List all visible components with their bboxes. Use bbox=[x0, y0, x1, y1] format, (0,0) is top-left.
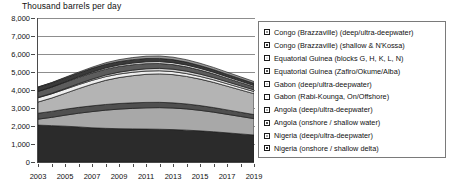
x-axis-tick-label: 2017 bbox=[219, 172, 236, 181]
chart-title: Thousand barrels per day bbox=[22, 1, 121, 11]
legend-swatch-icon bbox=[264, 68, 270, 74]
legend-swatch-icon bbox=[264, 133, 270, 139]
legend-swatch-icon bbox=[264, 42, 270, 48]
x-axis-tick-mark bbox=[119, 164, 120, 167]
y-axis-tick-label: 7,000 bbox=[11, 32, 30, 41]
legend-item-label: Congo (Brazzaville) (shallow & N'Kossa) bbox=[274, 41, 405, 50]
x-axis-tick-mark bbox=[133, 164, 134, 167]
legend-item[interactable]: Nigeria (deep/ultra-deepwater) bbox=[264, 129, 442, 142]
legend-item-label: Gabon (deep/ultra-deepwater) bbox=[274, 80, 372, 89]
x-axis-tick-mark bbox=[146, 164, 147, 167]
y-axis-tick-mark bbox=[31, 36, 35, 37]
legend-item-label: Nigeria (onshore / shallow delta) bbox=[274, 144, 379, 153]
legend-item-label: Equatorial Guinea (Zafiro/Okume/Alba) bbox=[274, 67, 400, 76]
legend-swatch-icon bbox=[264, 107, 270, 113]
legend-item-label: Angola (deep/ultra-deepwater) bbox=[274, 105, 373, 114]
legend-item[interactable]: Angola (deep/ultra-deepwater) bbox=[264, 103, 442, 116]
y-axis-tick-mark bbox=[31, 162, 35, 163]
legend-swatch-icon bbox=[264, 120, 270, 126]
y-axis-tick-mark bbox=[31, 54, 35, 55]
legend-item-label: Angola (onshore / shallow water) bbox=[274, 118, 380, 127]
legend-item[interactable]: Congo (Brazzaville) (deep/ultra-deepwate… bbox=[264, 26, 442, 39]
x-axis-tick-mark bbox=[106, 164, 107, 167]
x-axis-tick-mark bbox=[92, 164, 93, 167]
legend-item-label: Nigeria (deep/ultra-deepwater) bbox=[274, 131, 373, 140]
x-axis-tick-label: 2019 bbox=[246, 172, 263, 181]
x-axis-tick-label: 2013 bbox=[165, 172, 182, 181]
legend-item[interactable]: Gabon (deep/ultra-deepwater) bbox=[264, 78, 442, 91]
legend-swatch-icon bbox=[264, 94, 270, 100]
x-axis-tick-mark bbox=[200, 164, 201, 167]
y-axis-tick-mark bbox=[31, 18, 35, 19]
y-axis-tick-mark bbox=[31, 90, 35, 91]
x-axis: 200320052007200920112013201520172019 bbox=[37, 164, 254, 184]
legend-item[interactable]: Equatorial Guinea (blocks G, H, K, L, N) bbox=[264, 52, 442, 65]
y-axis: 01,0002,0003,0004,0005,0006,0007,0008,00… bbox=[0, 18, 35, 163]
legend-item-label: Gabon (Rabi-Kounga, On/Offshore) bbox=[274, 92, 389, 101]
x-axis-tick-mark bbox=[52, 164, 53, 167]
x-axis-tick-mark bbox=[79, 164, 80, 167]
y-axis-tick-label: 8,000 bbox=[11, 14, 30, 23]
y-axis-tick-label: 5,000 bbox=[11, 68, 30, 77]
legend-item-label: Equatorial Guinea (blocks G, H, K, L, N) bbox=[274, 54, 403, 63]
legend-swatch-icon bbox=[264, 55, 270, 61]
x-axis-tick-mark bbox=[254, 164, 255, 167]
x-axis-tick-mark bbox=[160, 164, 161, 167]
x-axis-tick-mark bbox=[214, 164, 215, 167]
y-axis-tick-mark bbox=[31, 72, 35, 73]
stacked-area-chart-figure: Thousand barrels per day 01,0002,0003,00… bbox=[0, 0, 449, 196]
legend-item[interactable]: Congo (Brazzaville) (shallow & N'Kossa) bbox=[264, 39, 442, 52]
legend-swatch-icon bbox=[264, 29, 270, 35]
x-axis-tick-mark bbox=[187, 164, 188, 167]
y-axis-tick-label: 2,000 bbox=[11, 122, 30, 131]
area-series-group bbox=[38, 18, 254, 162]
x-axis-tick-mark bbox=[65, 164, 66, 167]
y-axis-tick-mark bbox=[31, 144, 35, 145]
chart-legend: Congo (Brazzaville) (deep/ultra-deepwate… bbox=[258, 21, 446, 158]
y-axis-tick-label: 1,000 bbox=[11, 140, 30, 149]
legend-item[interactable]: Angola (onshore / shallow water) bbox=[264, 116, 442, 129]
x-axis-tick-label: 2003 bbox=[30, 172, 47, 181]
legend-item[interactable]: Equatorial Guinea (Zafiro/Okume/Alba) bbox=[264, 65, 442, 78]
x-axis-tick-label: 2011 bbox=[138, 172, 154, 181]
y-axis-tick-label: 6,000 bbox=[11, 50, 30, 59]
y-axis-tick-mark bbox=[31, 108, 35, 109]
x-axis-tick-label: 2007 bbox=[84, 172, 101, 181]
x-axis-tick-mark bbox=[38, 164, 39, 167]
x-axis-tick-label: 2015 bbox=[192, 172, 209, 181]
legend-item[interactable]: Gabon (Rabi-Kounga, On/Offshore) bbox=[264, 90, 442, 103]
x-axis-tick-mark bbox=[173, 164, 174, 167]
y-axis-tick-mark bbox=[31, 126, 35, 127]
x-axis-tick-mark bbox=[241, 164, 242, 167]
legend-item[interactable]: Nigeria (onshore / shallow delta) bbox=[264, 142, 442, 155]
x-axis-tick-label: 2009 bbox=[111, 172, 128, 181]
y-axis-tick-label: 4,000 bbox=[11, 86, 30, 95]
legend-swatch-icon bbox=[264, 81, 270, 87]
y-axis-tick-label: 3,000 bbox=[11, 104, 30, 113]
y-axis-tick-label: 0 bbox=[26, 158, 30, 167]
legend-item-label: Congo (Brazzaville) (deep/ultra-deepwate… bbox=[274, 28, 414, 37]
legend-swatch-icon bbox=[264, 145, 270, 151]
plot-area bbox=[37, 18, 254, 163]
x-axis-tick-mark bbox=[227, 164, 228, 167]
x-axis-tick-label: 2005 bbox=[57, 172, 74, 181]
